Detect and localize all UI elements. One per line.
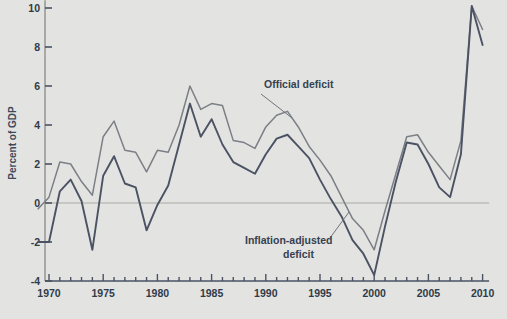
x-tick-label: 2005 bbox=[417, 287, 441, 299]
official-deficit-leader-line bbox=[261, 94, 292, 118]
y-tick-label: 8 bbox=[34, 41, 40, 53]
inflation-adjusted-annotation-line2: deficit bbox=[283, 248, 314, 260]
inflation-adjusted-annotation-line1: Inflation-adjusted bbox=[245, 234, 333, 246]
official-deficit-annotation: Official deficit bbox=[264, 78, 334, 90]
y-tick-label: 10 bbox=[28, 2, 40, 14]
x-tick-label: 1995 bbox=[308, 287, 332, 299]
x-tick-label: 1980 bbox=[146, 287, 170, 299]
x-tick-label: 2000 bbox=[363, 287, 387, 299]
x-tick-label: 1990 bbox=[254, 287, 278, 299]
x-tick-label: 2010 bbox=[471, 287, 495, 299]
y-tick-label: 4 bbox=[34, 119, 40, 131]
series-line-official-deficit bbox=[38, 6, 482, 250]
x-tick-label: 1975 bbox=[92, 287, 116, 299]
y-tick-label: 2 bbox=[34, 158, 40, 170]
deficit-chart: -4-2024681019701975198019851990199520002… bbox=[0, 0, 507, 319]
x-tick-label: 1970 bbox=[37, 287, 61, 299]
x-tick-label: 1985 bbox=[200, 287, 224, 299]
y-tick-label: -4 bbox=[31, 275, 40, 287]
chart-canvas: -4-2024681019701975198019851990199520002… bbox=[0, 0, 507, 319]
y-tick-label: 6 bbox=[34, 80, 40, 92]
y-axis-title: Percent of GDP bbox=[7, 106, 18, 180]
